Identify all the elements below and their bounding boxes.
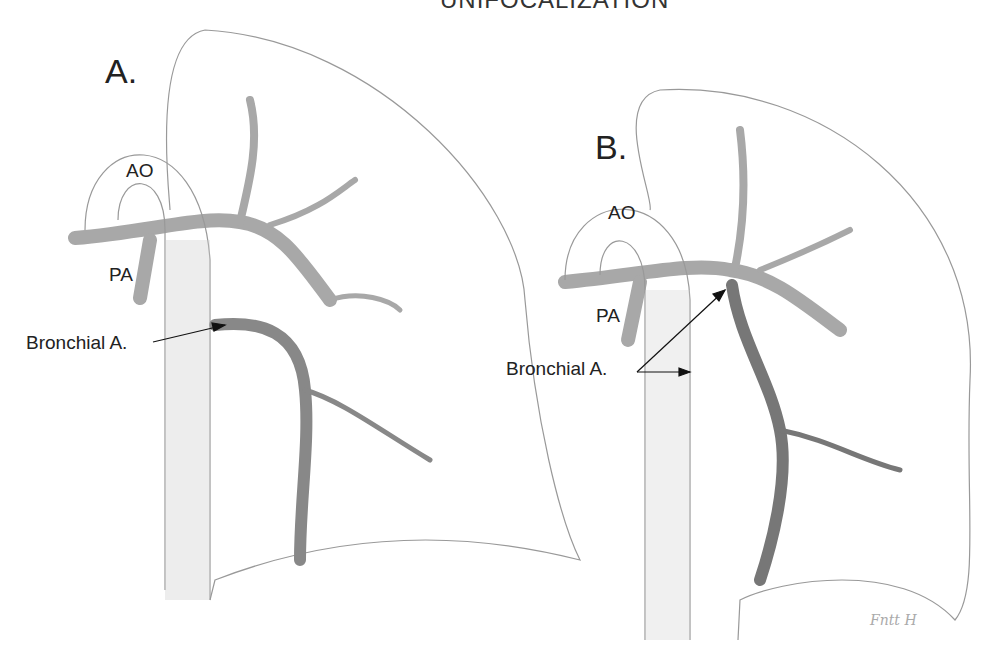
aorta-b — [645, 290, 690, 640]
panel-b-pa: PA — [596, 305, 620, 327]
lung-outline-a — [166, 30, 580, 600]
panel-a-ao: AO — [126, 160, 153, 182]
panel-a-pa: PA — [109, 264, 133, 286]
aorta-a — [165, 240, 210, 600]
bronchial-artery-a — [215, 324, 430, 560]
bronchial-artery-b — [732, 285, 900, 580]
panel-b-ao: AO — [608, 202, 635, 224]
panel-a-label: A. — [105, 52, 137, 91]
signature: Fntt H — [869, 612, 917, 628]
panel-b-label: B. — [595, 128, 627, 167]
illustration: Fntt H — [0, 0, 990, 650]
panel-b-bronchial: Bronchial A. — [506, 358, 607, 380]
panel-a-bronchial: Bronchial A. — [26, 332, 127, 354]
